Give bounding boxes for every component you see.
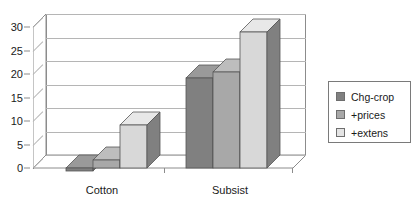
gridline	[46, 38, 306, 39]
y-tick-label: 20	[11, 68, 23, 80]
bar-chart: 30 25 20 15 10 5 0	[0, 0, 416, 216]
legend-item-prices: +prices	[336, 106, 410, 123]
legend-label: Chg-crop	[351, 91, 394, 103]
gridline	[46, 61, 306, 62]
gridline	[46, 132, 306, 133]
y-tick-mark	[24, 121, 30, 122]
x-tick-mark	[292, 168, 293, 173]
legend-swatch-icon	[336, 92, 345, 101]
legend-item-extens: +extens	[336, 124, 410, 141]
x-tick-mark	[164, 168, 165, 173]
x-category-label-cotton: Cotton	[86, 184, 118, 196]
plot-floor	[33, 154, 307, 170]
legend-item-chg-crop: Chg-crop	[336, 88, 410, 105]
y-tick-mark	[24, 144, 30, 145]
chart-legend: Chg-crop +prices +extens	[328, 81, 411, 143]
gridline	[46, 155, 306, 156]
y-tick-mark	[24, 168, 30, 169]
y-tick-mark	[24, 97, 30, 98]
x-axis-line	[33, 168, 34, 169]
y-tick-label: 5	[17, 139, 23, 151]
legend-swatch-icon	[336, 110, 345, 119]
y-axis: 30 25 20 15 10 5 0	[0, 0, 34, 216]
y-tick-label: 0	[17, 162, 23, 174]
y-tick-mark	[24, 50, 30, 51]
y-tick-label: 15	[11, 92, 23, 104]
y-tick-mark	[24, 74, 30, 75]
gridline	[46, 108, 306, 109]
gridline	[46, 14, 306, 15]
legend-label: +extens	[351, 127, 388, 139]
y-tick-mark	[24, 27, 30, 28]
legend-swatch-icon	[336, 128, 345, 137]
gridline	[46, 85, 306, 86]
y-tick-label: 25	[11, 45, 23, 57]
legend-label: +prices	[351, 109, 385, 121]
x-category-label-subsist: Subsist	[212, 184, 248, 196]
y-tick-label: 10	[11, 115, 23, 127]
y-tick-label: 30	[11, 21, 23, 33]
